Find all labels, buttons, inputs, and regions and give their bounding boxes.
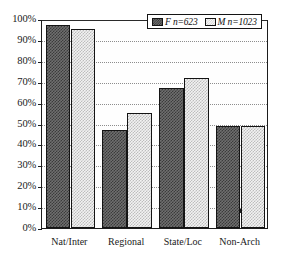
x-axis-tick-mark — [183, 209, 184, 213]
y-axis-tick-label: 0% — [0, 222, 36, 233]
bar-m-0 — [71, 29, 96, 228]
x-axis-tick-label: State/Loc — [155, 236, 212, 247]
x-axis-tick-mark — [240, 209, 241, 213]
y-axis-tick-mark — [38, 229, 42, 230]
legend-entry-m: M n=1023 — [205, 17, 257, 27]
legend-swatch-f-icon — [152, 18, 163, 26]
bar-m-1 — [127, 113, 152, 228]
bar-m-2 — [184, 78, 209, 228]
y-axis-tick-label: 50% — [0, 118, 36, 129]
y-axis-tick-label: 90% — [0, 34, 36, 45]
y-axis-tick-label: 100% — [0, 13, 36, 24]
x-axis-tick-mark — [69, 209, 70, 213]
x-axis-tick-label: Nat/Inter — [41, 236, 98, 247]
x-axis-tick-mark — [126, 209, 127, 213]
y-axis-tick-label: 30% — [0, 159, 36, 170]
grouped-bar-chart: 0%10%20%30%40%50%60%70%80%90%100% Nat/In… — [0, 0, 286, 264]
bar-group — [46, 21, 96, 228]
bar-f-2 — [159, 88, 184, 228]
legend-swatch-m-icon — [205, 18, 216, 26]
y-axis-tick-label: 60% — [0, 97, 36, 108]
x-axis-tick-label: Non-Arch — [211, 236, 268, 247]
y-axis-tick-label: 40% — [0, 138, 36, 149]
bar-group — [216, 21, 266, 228]
x-axis-tick-label: Regional — [98, 236, 155, 247]
bar-group — [102, 21, 152, 228]
y-axis-tick-label: 10% — [0, 201, 36, 212]
bar-m-3 — [241, 126, 266, 228]
bar-group — [159, 21, 209, 228]
chart-legend: F n=623 M n=1023 — [147, 14, 262, 29]
legend-label-m: M n=1023 — [218, 17, 257, 27]
y-axis-tick-label: 80% — [0, 55, 36, 66]
y-axis-tick-label: 20% — [0, 180, 36, 191]
plot-area — [41, 20, 268, 229]
bar-f-3 — [216, 126, 241, 228]
bars-layer — [42, 21, 267, 228]
y-axis-tick-label: 70% — [0, 76, 36, 87]
legend-entry-f: F n=623 — [152, 17, 198, 27]
bar-f-1 — [102, 130, 127, 228]
legend-label-f: F n=623 — [165, 17, 198, 27]
bar-f-0 — [46, 25, 71, 228]
